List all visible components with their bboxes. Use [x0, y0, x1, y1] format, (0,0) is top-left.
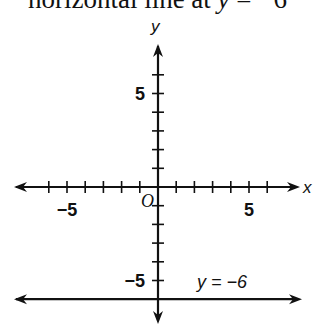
x-axis-label: x — [302, 178, 312, 197]
x-tick-label: 5 — [244, 200, 254, 220]
y-axis-label: y — [150, 17, 161, 36]
y-tick-label: 5 — [135, 84, 145, 104]
coordinate-plane: xy−555−5Oy = −6 — [0, 0, 315, 326]
line-annotation: y = −6 — [195, 272, 248, 292]
y-tick-label: −5 — [124, 271, 145, 291]
origin-label: O — [141, 191, 154, 211]
x-tick-label: −5 — [57, 200, 78, 220]
